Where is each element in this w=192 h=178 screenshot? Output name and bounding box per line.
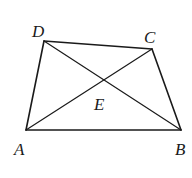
side-da (26, 41, 44, 130)
diagonal-ac (26, 49, 152, 130)
diagram-canvas: D C E A B (0, 0, 192, 178)
diagonal-bd (44, 41, 181, 130)
side-bc (152, 49, 181, 130)
label-d: D (31, 22, 45, 41)
label-b: B (175, 140, 186, 159)
side-cd (44, 41, 152, 49)
quadrilateral-diagram: D C E A B (0, 0, 192, 178)
label-a: A (13, 140, 25, 159)
label-e: E (93, 95, 105, 114)
label-c: C (144, 28, 156, 47)
